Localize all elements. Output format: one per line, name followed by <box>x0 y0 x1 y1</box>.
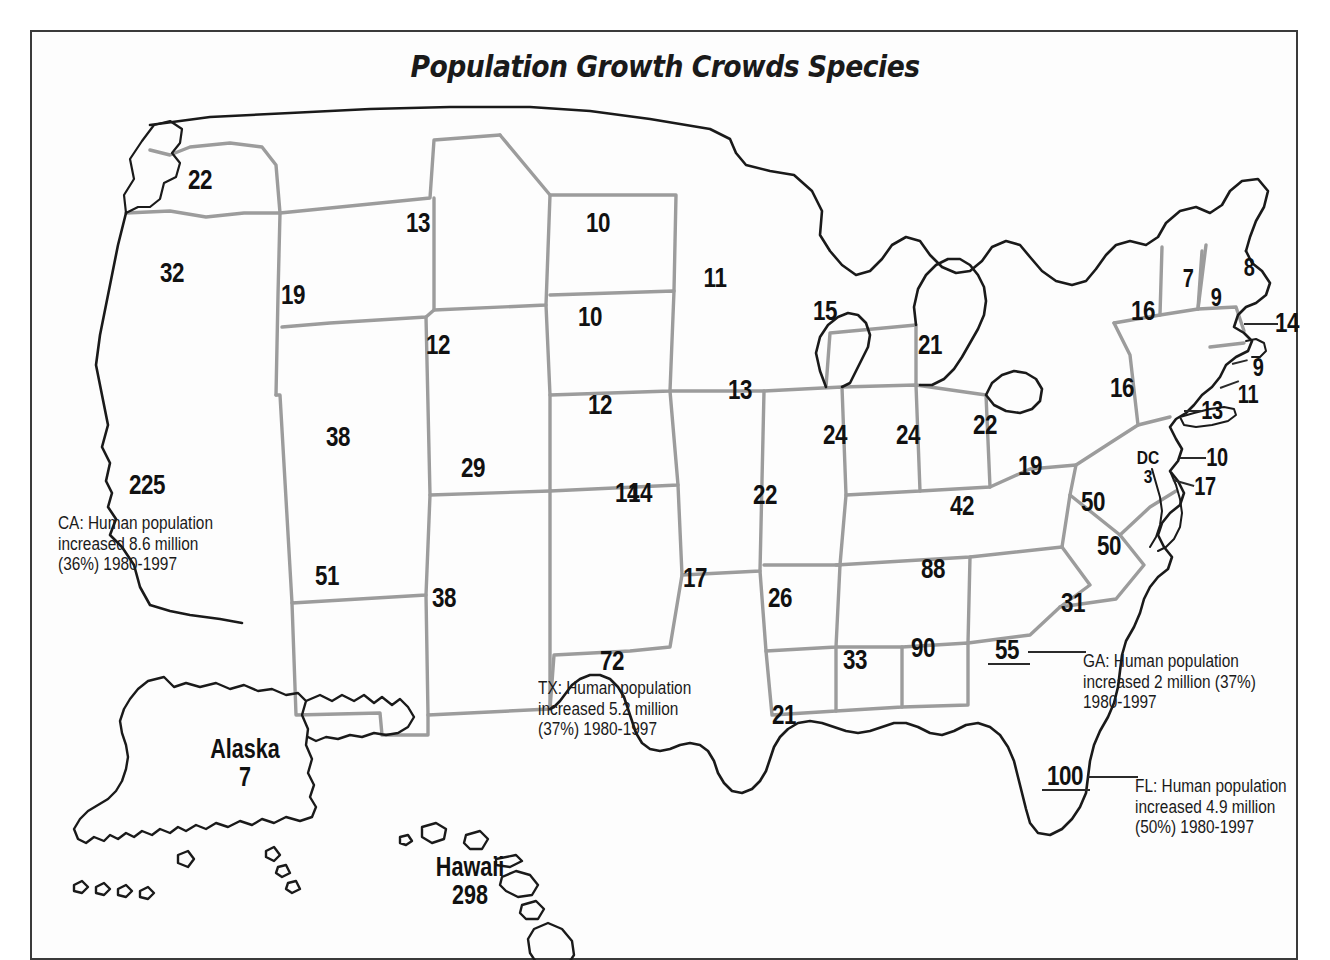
state-value-ny: 16 <box>1131 297 1155 325</box>
annotation-line: increased 8.6 million <box>58 534 213 555</box>
inset-name: Alaska <box>210 735 280 763</box>
state-value-la: 21 <box>772 701 796 729</box>
state-value-ky: 42 <box>950 492 974 520</box>
state-value-az: 51 <box>315 562 339 590</box>
map-page: Population Growth Crowds Species <box>0 0 1330 960</box>
dc-abbr: DC <box>1137 448 1160 467</box>
de-leader-line <box>1180 457 1206 459</box>
annotation-line: TX: Human population <box>538 678 691 699</box>
state-value-ne: 12 <box>588 391 612 419</box>
annotation-line: (37%) 1980-1997 <box>538 719 691 740</box>
inset-value: 7 <box>210 763 280 791</box>
state-value-sd: 10 <box>578 303 602 331</box>
state-value-oh: 22 <box>973 411 997 439</box>
nj-leader-line <box>1184 410 1202 412</box>
annotation-line: CA: Human population <box>58 513 213 534</box>
inset-value: 298 <box>436 881 504 909</box>
state-value-wv: 19 <box>1018 452 1042 480</box>
annotation-line: increased 2 million (37%) <box>1083 672 1256 693</box>
state-value-ri: 9 <box>1253 355 1264 380</box>
state-value-nc: 50 <box>1097 532 1121 560</box>
annotation-line: 1980-1997 <box>1083 692 1256 713</box>
inset-label-alaska: Alaska7 <box>210 735 280 791</box>
annotation-line: increased 5.2 million <box>538 699 691 720</box>
state-value-ms: 33 <box>843 646 867 674</box>
state-value-ar: 26 <box>768 584 792 612</box>
state-value-de: 10 <box>1206 445 1227 470</box>
state-value-ga: 55 <box>995 636 1019 664</box>
state-value-me: 8 <box>1244 255 1255 280</box>
ga-annotation: GA: Human populationincreased 2 million … <box>1083 651 1256 713</box>
annotation-line: increased 4.9 million <box>1135 797 1287 818</box>
state-value-nv: 38 <box>326 423 350 451</box>
state-value-pa: 16 <box>1110 374 1134 402</box>
annotation-line: GA: Human population <box>1083 651 1256 672</box>
state-value-nd: 10 <box>586 209 610 237</box>
ca-annotation: CA: Human populationincreased 8.6 millio… <box>58 513 213 575</box>
state-value-dc: DC3 <box>1137 448 1160 487</box>
state-value-ia: 13 <box>728 376 752 404</box>
state-value-ks: 14 <box>628 479 652 507</box>
state-value-va: 50 <box>1081 488 1105 516</box>
state-value-il: 24 <box>823 421 847 449</box>
state-value-mt: 13 <box>406 209 430 237</box>
inset-name: Hawaii <box>436 853 504 881</box>
state-value-id: 19 <box>281 281 305 309</box>
state-value-ok: 17 <box>683 564 707 592</box>
state-value-sc: 31 <box>1061 589 1085 617</box>
tx-annotation: TX: Human populationincreased 5.2 millio… <box>538 678 691 740</box>
annotation-line: (36%) 1980-1997 <box>58 554 213 575</box>
state-borders-layer <box>126 135 1244 735</box>
state-value-wa: 22 <box>188 166 212 194</box>
us-map-svg <box>30 95 1300 945</box>
state-value-or: 32 <box>160 259 184 287</box>
state-value-nj: 13 <box>1201 398 1222 423</box>
page-title: Population Growth Crowds Species <box>93 48 1237 84</box>
annotation-line: FL: Human population <box>1135 776 1287 797</box>
state-value-mi: 21 <box>918 331 942 359</box>
annotation-line: (50%) 1980-1997 <box>1135 817 1287 838</box>
state-value-nh: 9 <box>1211 285 1222 310</box>
ga-leader-line <box>1028 651 1086 653</box>
state-value-mo: 22 <box>753 481 777 509</box>
dc-value: 3 <box>1137 467 1160 486</box>
inset-label-hawaii: Hawaii298 <box>436 853 504 909</box>
state-value-tn: 88 <box>921 555 945 583</box>
state-value-al: 90 <box>911 634 935 662</box>
state-value-ma: 14 <box>1275 309 1299 337</box>
state-value-in: 24 <box>896 421 920 449</box>
state-value-ut: 29 <box>461 454 485 482</box>
state-value-mn: 11 <box>704 264 727 292</box>
state-value-md: 17 <box>1194 474 1215 499</box>
state-value-ct: 11 <box>1238 382 1258 407</box>
state-value-tx: 72 <box>600 647 624 675</box>
fl-leader-line <box>1088 776 1138 778</box>
state-value-wy: 12 <box>426 331 450 359</box>
state-value-fl: 100 <box>1047 762 1083 790</box>
state-value-ca: 225 <box>129 471 165 499</box>
ma-leader-line <box>1244 323 1278 325</box>
state-value-vt: 7 <box>1183 266 1194 291</box>
fl-annotation: FL: Human populationincreased 4.9 millio… <box>1135 776 1287 838</box>
state-value-nm: 38 <box>432 584 456 612</box>
us-map: 2232191310101112121315213829142224242216… <box>30 95 1300 945</box>
state-value-wi: 15 <box>813 297 837 325</box>
